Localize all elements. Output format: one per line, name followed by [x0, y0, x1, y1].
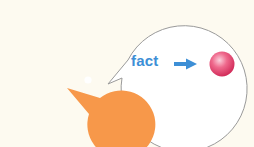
illustration-canvas — [0, 0, 254, 147]
eye-icon — [84, 76, 91, 83]
pink-ball-icon — [210, 52, 235, 77]
fact-label: fact — [131, 52, 158, 69]
